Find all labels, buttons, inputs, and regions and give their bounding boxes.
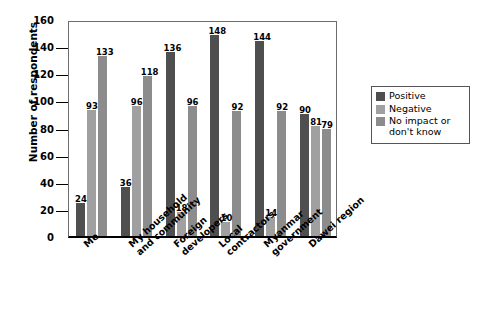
y-axis-tick-label: 120 [18,70,54,80]
legend-item: No impact or don't know [376,116,465,137]
bar-value-label: 90 [298,106,312,115]
bar-value-label: 144 [253,33,267,42]
y-axis-tick-label: 100 [18,97,54,107]
y-axis-tick [56,130,68,131]
legend-swatch-icon [376,117,385,126]
y-axis-tick-label: 80 [18,125,54,135]
bar [277,111,286,236]
y-axis-tick-label: 0 [18,233,54,243]
bar-value-label: 118 [141,68,155,77]
bar [188,106,197,236]
bar [132,106,141,236]
y-axis-tick-label: 140 [18,43,54,53]
legend-swatch-icon [376,92,385,101]
bar-value-label: 148 [208,27,222,36]
bar-value-label: 36 [119,179,133,188]
bar-value-label: 133 [96,48,110,57]
bar [76,203,85,236]
bar [143,76,152,236]
plot-area: 2493133369611813618961481092144149290817… [68,21,337,238]
y-axis-tick-label: 40 [18,179,54,189]
y-axis-tick [56,75,68,76]
bar-value-label: 96 [186,98,200,107]
bar-value-label: 92 [230,103,244,112]
y-axis-tick [56,102,68,103]
bar [232,111,241,236]
bar-chart: Number of respondents 249313336961181361… [0,0,479,316]
bars-layer: 2493133369611813618961481092144149290817… [69,22,336,236]
y-axis-tick [56,157,68,158]
bar-value-label: 79 [320,121,334,130]
legend-label: Negative [389,104,432,115]
legend-item: Positive [376,91,465,102]
bar-value-label: 24 [74,195,88,204]
legend-label: Positive [389,91,426,102]
y-axis-tick [56,48,68,49]
y-axis-tick-label: 60 [18,152,54,162]
bar-value-label: 96 [130,98,144,107]
bar-value-label: 92 [275,103,289,112]
y-axis-tick [56,184,68,185]
legend-swatch-icon [376,105,385,114]
legend-label: No impact or don't know [389,116,450,137]
legend-item: Negative [376,104,465,115]
bar-value-label: 93 [85,102,99,111]
bar-value-label: 136 [164,44,178,53]
bar [121,187,130,236]
chart-legend: PositiveNegativeNo impact or don't know [371,86,470,144]
y-axis-title: Number of respondents [27,12,39,172]
y-axis-tick-label: 160 [18,16,54,26]
bar [87,110,96,236]
y-axis-tick-label: 20 [18,206,54,216]
bar-group [121,22,152,236]
bar [98,56,107,236]
y-axis-tick [56,211,68,212]
